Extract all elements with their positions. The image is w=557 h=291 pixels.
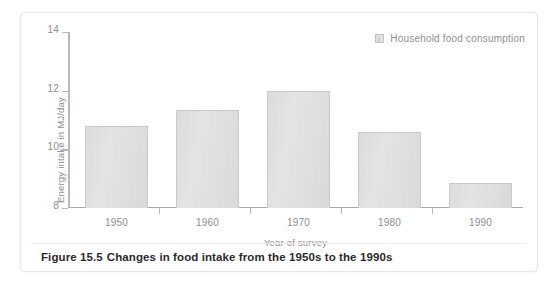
bar-1950 xyxy=(85,126,148,208)
bar-1980 xyxy=(358,132,421,208)
x-tick-boundary-1 xyxy=(159,208,160,214)
caption-divider xyxy=(31,243,527,244)
bar-1960 xyxy=(176,110,239,208)
x-label-1970: 1970 xyxy=(267,217,330,228)
bar-1990 xyxy=(449,183,512,208)
figure-caption: Figure 15.5Changes in food intake from t… xyxy=(41,251,392,263)
figure-caption-text: Changes in food intake from the 1950s to… xyxy=(107,251,393,263)
x-label-1960: 1960 xyxy=(176,217,239,228)
x-label-1980: 1980 xyxy=(358,217,421,228)
x-tick-boundary-4 xyxy=(432,208,433,214)
x-tick-boundary-2 xyxy=(250,208,251,214)
plot-area: 14 12 10 8 xyxy=(68,32,523,208)
figure-number: Figure 15.5 xyxy=(41,251,103,263)
chart-area: Energy intake in MJ/day Household food c… xyxy=(21,13,539,241)
x-label-1990: 1990 xyxy=(449,217,512,228)
bar-1970 xyxy=(267,91,330,208)
figure-frame: Energy intake in MJ/day Household food c… xyxy=(20,12,538,272)
x-label-1950: 1950 xyxy=(85,217,148,228)
y-axis-line xyxy=(68,32,70,208)
x-tick-boundary-3 xyxy=(341,208,342,214)
